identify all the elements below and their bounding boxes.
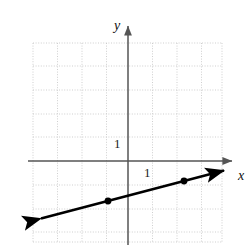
data-point-2 [181, 178, 188, 185]
graph-figure: y x 1 1 [0, 0, 251, 252]
coordinate-plane [0, 0, 251, 252]
data-point-1 [105, 198, 112, 205]
x-axis-tick-label-1: 1 [144, 166, 151, 179]
y-axis-tick-label-1: 1 [114, 137, 121, 150]
plotted-line [41, 171, 224, 219]
x-axis-label: x [238, 169, 244, 183]
y-axis-label: y [114, 19, 120, 33]
